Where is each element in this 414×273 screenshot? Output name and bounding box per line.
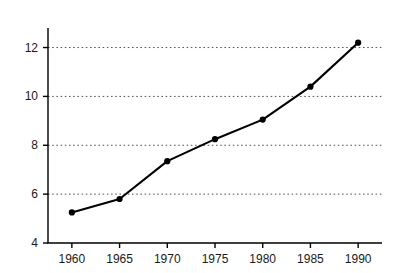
data-point-1985 — [307, 84, 313, 90]
data-point-1965 — [116, 196, 122, 202]
data-point-1960 — [69, 209, 75, 215]
data-point-1975 — [212, 136, 218, 142]
data-point-1970 — [164, 158, 170, 164]
data-point-1980 — [260, 117, 266, 123]
chart-figure: % GNP 4681012 19601965197019751980198519… — [0, 0, 414, 273]
line-chart-plot — [0, 0, 414, 273]
chart-background — [0, 0, 414, 273]
data-point-1990 — [355, 40, 361, 46]
